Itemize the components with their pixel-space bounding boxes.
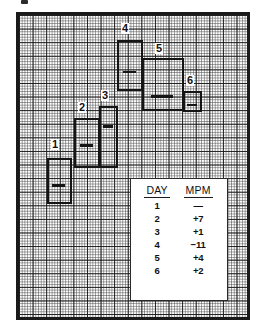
table-body: 1—2+73+14−115+46+2 (138, 199, 220, 277)
bar-3-tick-mark (103, 125, 113, 128)
cell-day: 1 (138, 199, 176, 212)
bar-6-tick-mark (187, 104, 197, 107)
bar-label-5: 5 (155, 43, 163, 54)
bar-label-6: 6 (186, 75, 194, 86)
column-header-day-label: DAY (144, 184, 169, 198)
bar-label-1: 1 (51, 139, 59, 150)
cell-mpm: +7 (176, 212, 220, 225)
column-header-day: DAY (138, 184, 176, 199)
cell-mpm: — (176, 199, 220, 212)
bar-3 (99, 106, 118, 168)
cell-day: 4 (138, 238, 176, 251)
bar-2 (74, 118, 100, 168)
bar-6 (183, 91, 202, 112)
bar-label-2: 2 (78, 102, 86, 113)
day-mpm-table: DAY MPM 1—2+73+14−115+46+2 (138, 184, 220, 277)
cell-day: 6 (138, 264, 176, 277)
table-row: 1— (138, 199, 220, 212)
top-crop-mark (21, 0, 28, 4)
cell-day: 3 (138, 225, 176, 238)
cell-mpm: −11 (176, 238, 220, 251)
cell-mpm: +4 (176, 251, 220, 264)
bar-4 (117, 40, 143, 91)
bar-4-tick-mark (123, 71, 137, 74)
bar-label-3: 3 (101, 90, 109, 101)
bar-2-tick-mark (80, 144, 94, 147)
table-header-row: DAY MPM (138, 184, 220, 199)
table-row: 3+1 (138, 225, 220, 238)
data-table: DAY MPM 1—2+73+14−115+46+2 (130, 178, 228, 301)
table-row: 5+4 (138, 251, 220, 264)
column-header-mpm-label: MPM (184, 184, 213, 198)
cell-mpm: +2 (176, 264, 220, 277)
table-row: 6+2 (138, 264, 220, 277)
column-header-mpm: MPM (176, 184, 220, 199)
bar-label-4: 4 (121, 23, 129, 34)
cell-mpm: +1 (176, 225, 220, 238)
cell-day: 5 (138, 251, 176, 264)
table-row: 2+7 (138, 212, 220, 225)
bar-5 (142, 58, 184, 111)
table-row: 4−11 (138, 238, 220, 251)
bar-5-tick-mark (151, 95, 173, 98)
bar-1-tick-mark (52, 184, 65, 187)
cell-day: 2 (138, 212, 176, 225)
bar-1 (47, 158, 72, 204)
